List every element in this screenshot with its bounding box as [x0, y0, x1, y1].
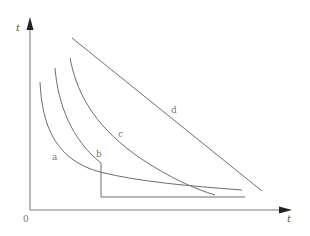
y-axis-arrow-icon — [27, 17, 34, 30]
curve-b — [55, 68, 245, 197]
y-axis-label: t — [16, 22, 21, 33]
curve-b-label: b — [96, 149, 102, 159]
curve-c-label: c — [118, 129, 123, 139]
x-axis-label: t — [287, 213, 292, 224]
line-d-label: d — [171, 105, 177, 115]
diagram: t t 0 a b c d — [0, 0, 310, 236]
curve-c — [70, 58, 215, 195]
curve-a-label: a — [52, 152, 58, 162]
origin-label: 0 — [23, 214, 29, 224]
curve-a — [40, 82, 242, 190]
